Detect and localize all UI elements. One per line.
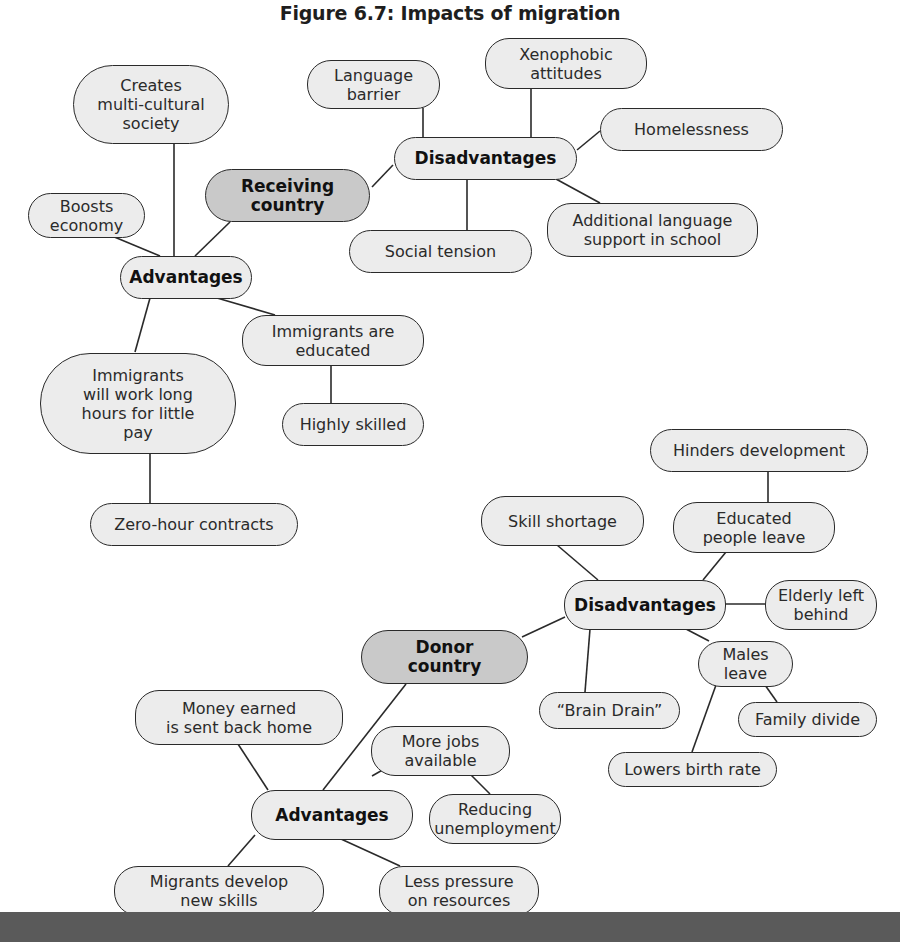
- footer-bar: [0, 912, 900, 942]
- node-additional-language-support: Additional language support in school: [547, 203, 758, 257]
- node-xenophobic-attitudes: Xenophobic attitudes: [485, 38, 647, 89]
- node-migrants-develop-skills: Migrants develop new skills: [114, 866, 324, 916]
- node-receiving-disadvantages: Disadvantages: [394, 137, 577, 180]
- node-skill-shortage: Skill shortage: [481, 496, 644, 546]
- node-donor-advantages: Advantages: [251, 790, 413, 840]
- node-immigrants-work-long: Immigrants will work long hours for litt…: [40, 353, 236, 454]
- node-lowers-birth-rate: Lowers birth rate: [608, 752, 777, 787]
- node-immigrants-educated: Immigrants are educated: [242, 315, 424, 366]
- node-receiving-country: Receiving country: [205, 169, 370, 222]
- node-zero-hour-contracts: Zero-hour contracts: [90, 503, 298, 546]
- node-receiving-advantages: Advantages: [120, 256, 252, 299]
- node-more-jobs-available: More jobs available: [371, 726, 510, 776]
- node-educated-people-leave: Educated people leave: [673, 502, 835, 553]
- node-males-leave: Males leave: [698, 641, 793, 687]
- node-donor-disadvantages: Disadvantages: [564, 580, 726, 630]
- node-family-divide: Family divide: [738, 702, 877, 737]
- node-language-barrier: Language barrier: [307, 60, 440, 109]
- node-social-tension: Social tension: [349, 230, 532, 273]
- node-reducing-unemployment: Reducing unemployment: [429, 794, 561, 844]
- node-brain-drain: “Brain Drain”: [539, 692, 680, 729]
- node-homelessness: Homelessness: [600, 108, 783, 151]
- node-highly-skilled: Highly skilled: [282, 403, 424, 446]
- node-money-sent-home: Money earned is sent back home: [135, 690, 343, 745]
- node-elderly-left-behind: Elderly left behind: [765, 580, 877, 630]
- node-less-pressure-resources: Less pressure on resources: [379, 866, 539, 916]
- node-hinders-development: Hinders development: [650, 429, 868, 472]
- node-boosts-economy: Boosts economy: [28, 193, 145, 238]
- node-donor-country: Donor country: [361, 630, 528, 684]
- node-multicultural: Creates multi-cultural society: [73, 65, 229, 144]
